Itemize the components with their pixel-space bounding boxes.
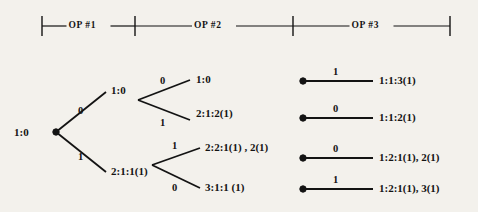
branch-upper-1-edge-label: 1 (160, 118, 165, 129)
leaf-row-1-node-label: 1:1:3(1) (379, 75, 416, 86)
ruler-label-1: OP #1 (69, 21, 97, 31)
branch-0-node-label: 1:0 (111, 85, 126, 96)
leaf-row-3-edge-label: 0 (333, 144, 338, 155)
branch-lower-0-node-label: 3:1:1 (1) (205, 182, 244, 193)
branch-lower-1-node-label: 2:2:1(1) , 2(1) (205, 142, 268, 153)
branch-upper-1-node-label: 2:1:2(1) (196, 108, 233, 119)
leaf-row-2-edge-label: 0 (333, 104, 338, 115)
branch-upper-0-node-label: 1:0 (196, 74, 211, 85)
ruler-label-3: OP #3 (352, 21, 380, 31)
figure-canvas: OP #1OP #2OP #31:001:012:1:1(1)01:012:1:… (0, 0, 478, 212)
ruler-label-2: OP #2 (194, 21, 222, 31)
leaf-row-4-node-label: 1:2:1(1), 3(1) (379, 183, 439, 194)
leaf-row-4-edge-label: 1 (333, 175, 338, 186)
branch-lower-0-edge-label: 0 (172, 183, 177, 194)
branch-lower-1-edge-label: 1 (172, 141, 177, 152)
leaf-row-1-edge-label: 1 (333, 67, 338, 78)
leaf-row-3-node-label: 1:2:1(1), 2(1) (379, 152, 439, 163)
branch-0-edge-label: 0 (78, 106, 83, 117)
root-node-label: 1:0 (14, 127, 29, 138)
branch-upper-0-edge-label: 0 (160, 76, 165, 87)
leaf-row-2-node-label: 1:1:2(1) (379, 112, 416, 123)
branch-1-edge-label: 1 (78, 152, 83, 163)
branch-1-node-label: 2:1:1(1) (111, 166, 148, 177)
